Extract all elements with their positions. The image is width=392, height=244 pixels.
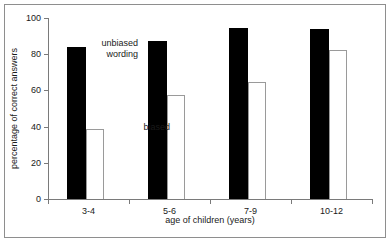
y-tick-mark — [44, 127, 49, 128]
y-tick-mark — [44, 163, 49, 164]
x-tick-mark — [210, 199, 211, 204]
plot-area: 020406080100 3-45-67-910-12 unbiased wor… — [48, 18, 372, 199]
y-axis-line — [48, 18, 49, 200]
annotation-biased: biased — [136, 122, 170, 133]
bar-biased-10-12 — [329, 50, 347, 199]
y-tick-label: 40 — [31, 122, 41, 131]
y-tick-mark — [44, 90, 49, 91]
y-tick-80: 80 — [48, 54, 49, 55]
y-tick-40: 40 — [48, 127, 49, 128]
bar-unbiased-10-12 — [310, 29, 329, 199]
x-tick-mark — [291, 199, 292, 204]
chart-figure: percentage of correct answers age of chi… — [0, 0, 392, 244]
x-tick-label-5-6: 5-6 — [163, 207, 176, 216]
bar-unbiased-3-4 — [67, 47, 86, 199]
y-tick-60: 60 — [48, 90, 49, 91]
annotation-unbiased-wording: unbiased wording — [96, 38, 138, 60]
y-tick-label: 100 — [26, 14, 41, 23]
bar-unbiased-5-6 — [148, 41, 167, 199]
y-tick-label: 60 — [31, 86, 41, 95]
y-axis-title: percentage of correct answers — [7, 18, 21, 199]
x-tick-mark — [129, 199, 130, 204]
y-tick-mark — [44, 18, 49, 19]
bar-biased-5-6 — [167, 95, 185, 199]
x-tick-label-10-12: 10-12 — [320, 207, 343, 216]
y-tick-mark — [44, 54, 49, 55]
bar-unbiased-7-9 — [229, 28, 248, 199]
x-tick-mark — [48, 199, 49, 204]
y-tick-label: 0 — [36, 195, 41, 204]
bar-biased-3-4 — [86, 129, 104, 199]
x-tick-label-7-9: 7-9 — [244, 207, 257, 216]
y-tick-label: 80 — [31, 50, 41, 59]
y-tick-label: 20 — [31, 158, 41, 167]
bar-biased-7-9 — [248, 82, 266, 199]
x-axis-title: age of children (years) — [48, 216, 372, 225]
y-tick-20: 20 — [48, 163, 49, 164]
x-tick-mark — [372, 199, 373, 204]
x-tick-label-3-4: 3-4 — [82, 207, 95, 216]
y-tick-100: 100 — [48, 18, 49, 19]
